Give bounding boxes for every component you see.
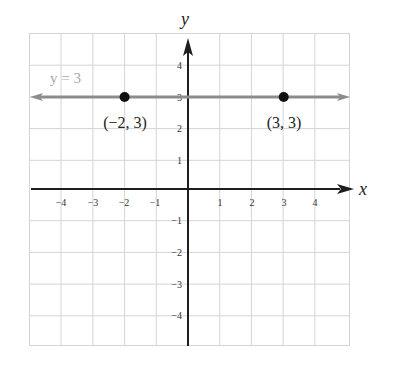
point-b-label: (3, 3): [267, 114, 302, 132]
svg-text:−1: −1: [171, 215, 182, 226]
coordinate-plane: x y −4 −3 −2 −1 1 2 3 4 4 3 2 1 −1 −2 −3…: [0, 0, 393, 374]
y-tick-labels: 4 3 2 1 −1 −2 −3 −4: [171, 60, 182, 321]
x-tick-labels: −4 −3 −2 −1 1 2 3 4: [56, 197, 318, 208]
point-a-label: (−2, 3): [103, 114, 147, 132]
svg-text:−1: −1: [150, 197, 161, 208]
svg-text:−2: −2: [171, 247, 182, 258]
point-neg2-3: [120, 92, 130, 102]
svg-text:−3: −3: [88, 197, 99, 208]
y-axis-label: y: [179, 9, 189, 29]
svg-text:1: 1: [218, 197, 223, 208]
svg-text:−2: −2: [119, 197, 130, 208]
svg-text:3: 3: [282, 197, 287, 208]
x-axis: [31, 184, 354, 194]
x-axis-label: x: [358, 179, 367, 199]
svg-text:−4: −4: [56, 197, 67, 208]
svg-text:−3: −3: [171, 279, 182, 290]
equation-label: y = 3: [50, 70, 81, 86]
y-axis: [183, 38, 193, 346]
svg-text:2: 2: [250, 197, 255, 208]
svg-text:2: 2: [177, 123, 182, 134]
svg-text:−4: −4: [171, 310, 182, 321]
svg-text:4: 4: [313, 197, 318, 208]
svg-text:4: 4: [177, 60, 182, 71]
svg-text:1: 1: [177, 155, 182, 166]
point-3-3: [279, 92, 289, 102]
line-y-equals-3: [30, 93, 350, 101]
